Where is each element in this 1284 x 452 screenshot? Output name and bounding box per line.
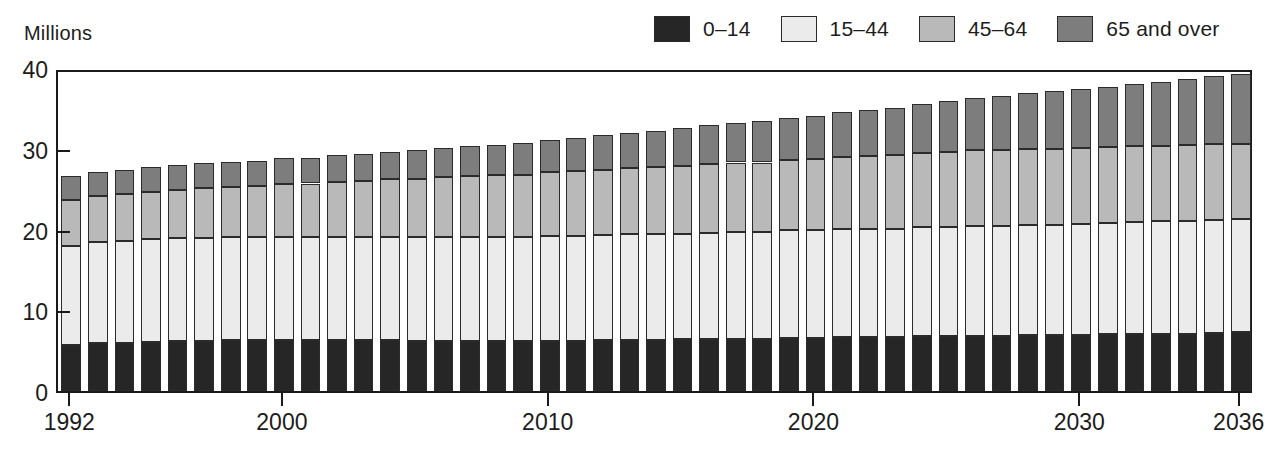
bar-2000[interactable] (274, 158, 294, 391)
bar-segment (327, 182, 347, 237)
bar-2015[interactable] (673, 128, 693, 391)
bar-2026[interactable] (965, 98, 985, 391)
bar-1992[interactable] (61, 176, 81, 391)
bar-segment (168, 165, 188, 190)
bar-segment (620, 234, 640, 340)
bar-segment (1231, 332, 1251, 391)
bar-segment (61, 200, 81, 245)
y-axis-tick-label: 20 (2, 218, 48, 245)
y-axis-tick-label: 40 (2, 57, 48, 84)
bar-segment (487, 145, 507, 176)
bar-2032[interactable] (1125, 84, 1145, 391)
bar-segment (1045, 225, 1065, 336)
bar-segment (168, 341, 188, 391)
bar-segment (327, 237, 347, 340)
bar-segment (566, 341, 586, 391)
legend-item[interactable]: 0–14 (654, 16, 751, 42)
bar-segment (327, 340, 347, 391)
population-projection-chart: Millions 0–1415–4445–6465 and over 01020… (0, 0, 1284, 452)
bar-2022[interactable] (859, 110, 879, 391)
bar-1995[interactable] (141, 167, 161, 391)
bar-segment (646, 167, 666, 234)
bar-segment (460, 237, 480, 341)
bar-2017[interactable] (726, 123, 746, 391)
bar-segment (859, 337, 879, 391)
bar-segment (1045, 91, 1065, 148)
bar-2033[interactable] (1151, 82, 1171, 391)
bar-2002[interactable] (327, 155, 347, 391)
bar-2021[interactable] (832, 112, 852, 391)
bar-2018[interactable] (752, 121, 772, 391)
bar-2035[interactable] (1204, 76, 1224, 391)
bar-segment (301, 158, 321, 184)
legend-label: 65 and over (1106, 17, 1219, 41)
bar-segment (380, 237, 400, 340)
bar-segment (779, 230, 799, 337)
legend-swatch-icon (654, 16, 690, 42)
bar-2025[interactable] (939, 101, 959, 391)
bar-2016[interactable] (699, 125, 719, 391)
bar-segment (646, 131, 666, 167)
bar-segment (221, 187, 241, 237)
bar-2028[interactable] (1018, 93, 1038, 391)
bar-1994[interactable] (115, 170, 135, 391)
bar-segment (992, 150, 1012, 226)
bar-1998[interactable] (221, 162, 241, 391)
bar-2024[interactable] (912, 104, 932, 391)
bar-2023[interactable] (885, 108, 905, 391)
bar-2034[interactable] (1178, 79, 1198, 391)
bar-2003[interactable] (354, 154, 374, 391)
bar-segment (1204, 76, 1224, 144)
bar-segment (115, 194, 135, 241)
bar-2010[interactable] (540, 140, 560, 391)
bar-segment (88, 343, 108, 391)
bar-2004[interactable] (380, 152, 400, 391)
bar-2008[interactable] (487, 145, 507, 391)
bar-segment (752, 121, 772, 162)
bar-2006[interactable] (434, 148, 454, 391)
bar-2011[interactable] (566, 138, 586, 391)
bars-layer (58, 72, 1250, 391)
bar-segment (274, 340, 294, 391)
bar-segment (779, 160, 799, 230)
bar-2027[interactable] (992, 96, 1012, 391)
bar-segment (1178, 79, 1198, 144)
bar-2009[interactable] (513, 143, 533, 391)
bar-segment (274, 237, 294, 340)
legend-item[interactable]: 65 and over (1057, 16, 1219, 42)
bar-segment (752, 232, 772, 339)
bar-segment (407, 237, 427, 341)
bar-2013[interactable] (620, 133, 640, 391)
bar-segment (247, 340, 267, 391)
bar-1996[interactable] (168, 165, 188, 391)
bar-segment (566, 138, 586, 171)
bar-2005[interactable] (407, 150, 427, 391)
bar-segment (726, 232, 746, 339)
legend-item[interactable]: 15–44 (781, 16, 889, 42)
bar-2030[interactable] (1071, 89, 1091, 391)
bar-segment (699, 233, 719, 340)
bar-2014[interactable] (646, 131, 666, 391)
bar-2019[interactable] (779, 118, 799, 391)
bar-segment (61, 246, 81, 345)
y-axis-tick-mark (56, 231, 70, 233)
bar-2020[interactable] (806, 116, 826, 391)
bar-segment (513, 341, 533, 391)
bar-segment (354, 181, 374, 237)
bar-segment (885, 155, 905, 228)
bar-1999[interactable] (247, 161, 267, 391)
legend-label: 15–44 (830, 17, 889, 41)
bar-2012[interactable] (593, 135, 613, 391)
bar-1997[interactable] (194, 163, 214, 391)
bar-2029[interactable] (1045, 91, 1065, 391)
bar-segment (354, 237, 374, 340)
bar-segment (832, 112, 852, 156)
bar-2036[interactable] (1231, 74, 1251, 391)
bar-1993[interactable] (88, 172, 108, 391)
bar-2007[interactable] (460, 146, 480, 391)
bar-2001[interactable] (301, 158, 321, 391)
bar-segment (806, 338, 826, 391)
bar-2031[interactable] (1098, 87, 1118, 391)
legend-item[interactable]: 45–64 (919, 16, 1027, 42)
bar-segment (1045, 335, 1065, 391)
